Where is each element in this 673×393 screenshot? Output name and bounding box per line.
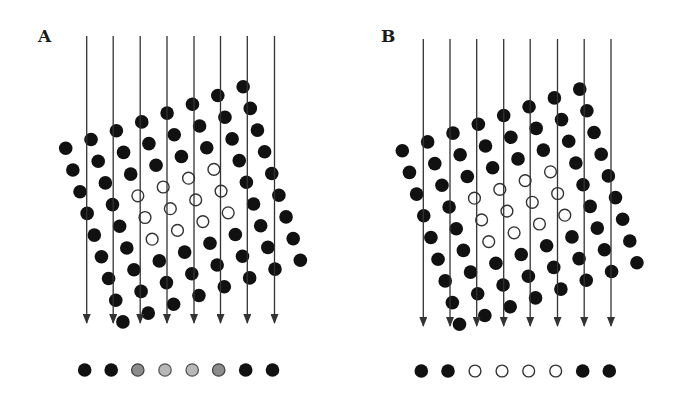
lattice-atom xyxy=(565,230,579,244)
lattice-atom xyxy=(554,282,568,296)
lattice-atom xyxy=(211,89,225,103)
lattice-atom xyxy=(555,113,569,127)
lattice-atom xyxy=(431,252,445,266)
lattice-atom xyxy=(73,185,87,199)
lattice-atom xyxy=(135,115,149,129)
panel-b: B xyxy=(381,26,644,378)
projected-atom-black xyxy=(266,363,280,377)
lattice-atom xyxy=(127,263,141,277)
lattice-atom xyxy=(464,265,478,279)
vacancy-atom xyxy=(164,203,176,215)
lattice-atom xyxy=(193,119,207,133)
lattice-atom xyxy=(244,102,258,116)
lattice-atom xyxy=(548,91,562,105)
lattice-atom xyxy=(410,187,424,201)
vacancy-atom xyxy=(559,209,571,221)
vacancy-atom xyxy=(483,236,495,248)
lattice-atom xyxy=(396,144,410,158)
projection-row xyxy=(415,364,617,378)
lattice-atom xyxy=(265,167,279,181)
vacancy-atom xyxy=(508,227,520,239)
lattice-atom xyxy=(630,256,644,270)
lattice-atom xyxy=(576,178,590,192)
lattice-atom xyxy=(446,296,460,310)
lattice-atom xyxy=(251,123,265,137)
vacancy-atom xyxy=(132,190,144,202)
lattice-atom xyxy=(486,161,500,175)
lattice-atom xyxy=(186,98,200,112)
diffraction-figure: A B xyxy=(0,0,673,393)
lattice-atom xyxy=(59,142,73,156)
projected-atom-black xyxy=(104,363,118,377)
vacancy-atom xyxy=(476,214,488,226)
vacancy-atom xyxy=(183,172,195,184)
lattice-atom xyxy=(258,145,272,159)
lattice-atom xyxy=(95,250,109,264)
lattice-atom xyxy=(149,159,163,173)
lattice-atom xyxy=(449,222,463,236)
lattice-atom xyxy=(261,241,275,255)
lattice-atom xyxy=(616,213,630,227)
projected-atom-black xyxy=(415,364,429,378)
lattice-atom xyxy=(442,200,456,214)
lattice-atom xyxy=(254,219,268,233)
lattice-atom xyxy=(232,154,246,168)
lattice-atom xyxy=(109,293,123,307)
lattice-atom xyxy=(496,278,510,292)
lattice-atom xyxy=(88,228,102,242)
projected-atom-hollow xyxy=(469,365,481,377)
atom-lattice xyxy=(396,82,644,331)
lattice-atom xyxy=(489,257,503,271)
lattice-atom xyxy=(279,210,293,224)
lattice-atom xyxy=(91,154,105,168)
lattice-atom xyxy=(587,126,601,140)
lattice-atom xyxy=(522,269,536,283)
vacancy-atom xyxy=(469,192,481,204)
lattice-atom xyxy=(522,100,536,114)
vacancy-atom xyxy=(222,207,234,219)
lattice-atom xyxy=(457,244,471,258)
projected-atom-black xyxy=(576,364,590,378)
lattice-atom xyxy=(200,141,214,155)
lattice-atom xyxy=(511,152,525,166)
lattice-atom xyxy=(247,197,261,211)
lattice-atom xyxy=(503,300,517,314)
projected-atom-hollow xyxy=(550,365,562,377)
projected-atom-black xyxy=(78,363,92,377)
lattice-atom xyxy=(514,248,528,262)
lattice-atom xyxy=(579,274,593,288)
panel-a: A xyxy=(37,26,307,377)
lattice-atom xyxy=(504,130,518,144)
lattice-atom xyxy=(210,258,224,272)
lattice-atom xyxy=(478,309,492,323)
lattice-atom xyxy=(229,228,243,242)
projected-atom-hollow xyxy=(496,365,508,377)
lattice-atom xyxy=(185,267,199,281)
vacancy-atom xyxy=(197,216,209,228)
vacancy-atom xyxy=(190,194,202,206)
lattice-atom xyxy=(113,220,127,234)
lattice-atom xyxy=(453,318,467,332)
vacancy-atom xyxy=(172,225,184,237)
lattice-atom xyxy=(461,170,475,184)
lattice-atom xyxy=(167,298,181,312)
lattice-atom xyxy=(453,148,467,162)
lattice-atom xyxy=(110,124,124,138)
lattice-atom xyxy=(529,122,543,136)
vacancy-atom xyxy=(208,164,220,176)
lattice-atom xyxy=(243,271,257,285)
lattice-atom xyxy=(117,146,131,160)
lattice-atom xyxy=(446,126,460,140)
lattice-atom xyxy=(472,118,486,132)
projected-atom-hollow xyxy=(523,365,535,377)
lattice-atom xyxy=(120,241,134,255)
projected-atom-black xyxy=(603,364,617,378)
vacancy-atom xyxy=(501,205,513,217)
vacancy-atom xyxy=(545,166,557,178)
lattice-atom xyxy=(286,232,300,246)
lattice-atom xyxy=(167,128,181,142)
lattice-atom xyxy=(178,245,192,259)
lattice-atom xyxy=(175,150,189,164)
lattice-atom xyxy=(479,139,493,153)
lattice-atom xyxy=(580,104,594,118)
